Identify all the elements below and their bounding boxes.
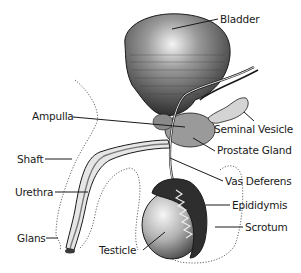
ampulla-shape bbox=[153, 114, 173, 130]
male-reproductive-anatomy-diagram: Bladder Seminal Vesicle Prostate Gland V… bbox=[0, 0, 301, 273]
bladder-shape bbox=[125, 14, 230, 116]
label-vas-deferens: Vas Deferens bbox=[225, 175, 292, 187]
label-seminal-vesicle: Seminal Vesicle bbox=[214, 123, 293, 135]
leader-seminal-vesicle bbox=[244, 112, 254, 121]
label-urethra: Urethra bbox=[15, 186, 53, 198]
label-bladder: Bladder bbox=[220, 13, 259, 25]
label-shaft: Shaft bbox=[17, 153, 43, 165]
label-scrotum: Scrotum bbox=[245, 221, 288, 233]
leader-vas-deferens bbox=[170, 158, 223, 181]
label-testicle: Testicle bbox=[99, 244, 136, 256]
label-epididymis: Epididymis bbox=[232, 199, 287, 211]
seminal-vesicle-shape bbox=[208, 98, 248, 123]
label-glans: Glans bbox=[17, 232, 46, 244]
label-prostate-gland: Prostate Gland bbox=[217, 144, 292, 156]
label-ampulla: Ampulla bbox=[32, 110, 74, 122]
